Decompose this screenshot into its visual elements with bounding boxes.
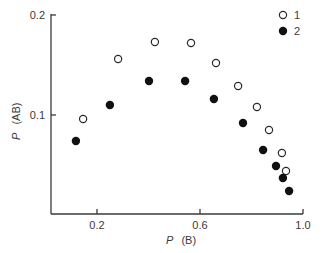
series-2-point — [239, 119, 247, 127]
tick-labels: 0.20.61.00.10.2 — [30, 9, 311, 231]
series-2-point — [279, 174, 287, 182]
legend-label-2: 2 — [294, 25, 300, 37]
series-2-point — [106, 101, 114, 109]
series-2-point — [259, 146, 267, 154]
series-1-point — [253, 103, 260, 110]
y-tick-label: 0.2 — [30, 9, 45, 21]
series-1-point — [115, 55, 122, 62]
data-points — [72, 38, 294, 195]
series-2-point — [272, 162, 280, 170]
series-1-point — [151, 38, 158, 45]
series-1-point — [265, 126, 272, 133]
series-1-point — [212, 59, 219, 66]
y-axis-label-italic: P — [10, 132, 22, 140]
series-2-point — [72, 137, 80, 145]
series-1-point — [278, 149, 285, 156]
series-2-point — [285, 187, 293, 195]
x-axis-label: P (B) — [166, 234, 196, 246]
x-axis-label-rest: (B) — [181, 234, 196, 246]
legend-label-1: 1 — [294, 9, 300, 21]
y-tick-label: 0.1 — [30, 109, 45, 121]
series-1-point — [187, 39, 194, 46]
series-1-point — [235, 82, 242, 89]
scatter-chart: 0.20.61.00.10.2 P (B) P (AB) 1 2 — [0, 0, 322, 253]
x-axis-label-italic: P — [166, 234, 174, 246]
series-2-point — [145, 77, 153, 85]
series-1-point — [282, 167, 289, 174]
legend-open-circle-icon — [279, 11, 286, 18]
axis-ticks — [51, 15, 303, 214]
legend: 1 2 — [279, 9, 300, 37]
x-tick-label: 0.2 — [89, 219, 104, 231]
y-axis-label: P (AB) — [10, 103, 22, 140]
x-tick-label: 1.0 — [295, 219, 310, 231]
x-tick-label: 0.6 — [192, 219, 207, 231]
series-1-point — [80, 115, 87, 122]
y-axis-label-rest: (AB) — [10, 103, 22, 125]
series-2-point — [210, 95, 218, 103]
legend-filled-circle-icon — [279, 27, 287, 35]
series-2-point — [181, 77, 189, 85]
